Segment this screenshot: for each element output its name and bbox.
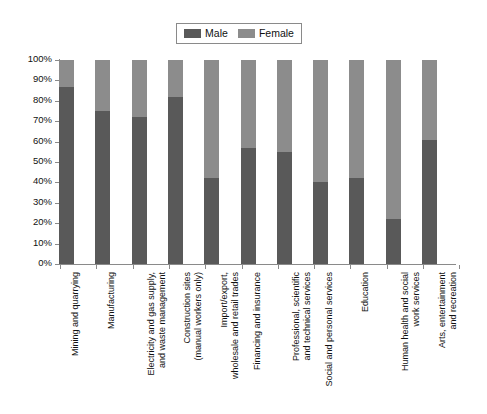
y-axis-tick-label: 50% bbox=[33, 155, 52, 166]
y-axis-tick: 10% bbox=[0, 244, 59, 245]
bar-segment-female bbox=[313, 60, 328, 182]
y-axis-tick: 60% bbox=[0, 142, 59, 143]
legend-label: Male bbox=[205, 28, 228, 39]
y-axis-tick-label: 80% bbox=[33, 94, 52, 105]
x-axis-tick-mark bbox=[314, 265, 315, 269]
bar-7 bbox=[277, 60, 292, 264]
y-axis-tick: 40% bbox=[0, 182, 59, 183]
bar-segment-female bbox=[422, 60, 437, 140]
x-axis-tick-mark bbox=[96, 265, 97, 269]
category-label-3: Electricity and gas supply, and waste ma… bbox=[146, 272, 167, 375]
bar-11 bbox=[422, 60, 437, 264]
bar-segment-female bbox=[168, 60, 183, 97]
stacked-bar-chart: MaleFemale 0%10%20%30%40%50%60%70%80%90%… bbox=[0, 0, 487, 414]
bar-9 bbox=[349, 60, 364, 264]
x-axis-tick-mark bbox=[133, 265, 134, 269]
x-axis-line bbox=[59, 264, 456, 265]
legend-swatch-female bbox=[238, 29, 255, 38]
category-label-5: Import/export, wholesale and retail trad… bbox=[219, 272, 240, 379]
plot-area bbox=[60, 60, 455, 264]
legend-item-male: Male bbox=[184, 28, 228, 39]
bar-segment-female bbox=[132, 60, 147, 117]
bar-segment-male bbox=[59, 87, 74, 264]
bar-segment-female bbox=[204, 60, 219, 178]
bar-segment-male bbox=[422, 140, 437, 264]
y-axis-tick: 70% bbox=[0, 121, 59, 122]
category-label-6: Financing and insurance bbox=[252, 272, 263, 370]
legend-swatch-male bbox=[184, 29, 201, 38]
bar-segment-male bbox=[241, 148, 256, 264]
category-label-1: Mining and quarrying bbox=[70, 272, 81, 356]
x-axis-tick-mark bbox=[242, 265, 243, 269]
y-axis-tick: 0% bbox=[0, 264, 59, 265]
bar-segment-male bbox=[168, 97, 183, 264]
x-axis-tick-mark bbox=[205, 265, 206, 269]
x-axis-tick-mark bbox=[278, 265, 279, 269]
bar-segment-male bbox=[386, 219, 401, 264]
y-axis-tick-label: 10% bbox=[33, 237, 52, 248]
x-axis-tick-mark bbox=[423, 265, 424, 269]
legend-item-female: Female bbox=[238, 28, 294, 39]
chart-legend: MaleFemale bbox=[176, 23, 302, 44]
y-axis-tick-label: 20% bbox=[33, 216, 52, 227]
y-axis-tick-label: 90% bbox=[33, 73, 52, 84]
bar-segment-female bbox=[95, 60, 110, 111]
bar-10 bbox=[386, 60, 401, 264]
category-label-11: Arts, entertainment and recreation bbox=[437, 272, 458, 348]
bar-1 bbox=[59, 60, 74, 264]
y-axis-tick-label: 0% bbox=[38, 257, 52, 268]
bar-segment-male bbox=[349, 178, 364, 264]
y-axis-tick: 100% bbox=[0, 60, 59, 61]
bar-segment-female bbox=[59, 60, 74, 87]
bar-segment-male bbox=[204, 178, 219, 264]
bar-5 bbox=[204, 60, 219, 264]
y-axis-tick-label: 60% bbox=[33, 135, 52, 146]
x-axis-tick-mark bbox=[459, 265, 460, 269]
y-axis-tick-label: 70% bbox=[33, 114, 52, 125]
y-axis-tick-mark bbox=[55, 264, 59, 265]
x-axis-tick-mark bbox=[350, 265, 351, 269]
bar-segment-male bbox=[95, 111, 110, 264]
bar-segment-male bbox=[277, 152, 292, 264]
bar-segment-female bbox=[277, 60, 292, 152]
x-axis-tick-mark bbox=[169, 265, 170, 269]
category-label-9: Education bbox=[360, 272, 371, 312]
bar-2 bbox=[95, 60, 110, 264]
bar-3 bbox=[132, 60, 147, 264]
bar-segment-male bbox=[313, 182, 328, 264]
x-axis-tick-mark bbox=[387, 265, 388, 269]
category-label-2: Manufacturing bbox=[106, 272, 117, 329]
category-label-7: Professional, scientific and technical s… bbox=[291, 272, 312, 361]
y-axis-tick: 50% bbox=[0, 162, 59, 163]
legend-label: Female bbox=[259, 28, 294, 39]
x-axis-tick-mark bbox=[60, 265, 61, 269]
bar-6 bbox=[241, 60, 256, 264]
bar-segment-female bbox=[241, 60, 256, 148]
bar-4 bbox=[168, 60, 183, 264]
y-axis-tick-label: 30% bbox=[33, 196, 52, 207]
y-axis-tick-label: 100% bbox=[28, 53, 52, 64]
category-label-10: Human health and social work services bbox=[400, 272, 421, 371]
category-label-8: Social and personal services bbox=[324, 272, 335, 387]
y-axis-tick: 80% bbox=[0, 101, 59, 102]
bar-8 bbox=[313, 60, 328, 264]
category-label-4: Construction sites (manual workers only) bbox=[182, 272, 203, 361]
y-axis-tick: 20% bbox=[0, 223, 59, 224]
y-axis-tick: 90% bbox=[0, 80, 59, 81]
bar-segment-female bbox=[349, 60, 364, 178]
bar-segment-male bbox=[132, 117, 147, 264]
y-axis-tick: 30% bbox=[0, 203, 59, 204]
y-axis-tick-label: 40% bbox=[33, 175, 52, 186]
bar-segment-female bbox=[386, 60, 401, 219]
